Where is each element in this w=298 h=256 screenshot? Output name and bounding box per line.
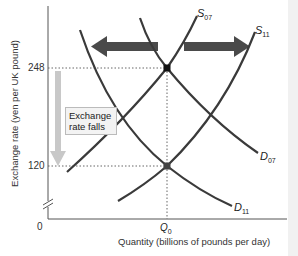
- arrow-down-icon: [50, 71, 66, 166]
- chart-canvas: [0, 0, 298, 256]
- equilibrium-point-2011: [164, 163, 171, 170]
- y-tick-248: 248: [28, 62, 45, 73]
- curve-s11: [118, 32, 255, 201]
- origin-label: 0: [37, 221, 43, 232]
- exchange-rate-falls-note: Exchange rate falls: [65, 107, 117, 135]
- x-tick-q0: Q0: [160, 222, 172, 235]
- label-d07: D07: [260, 150, 276, 164]
- curve-d07: [140, 18, 258, 153]
- equilibrium-point-2007: [164, 65, 171, 72]
- x-axis-label: Quantity (billions of pounds per day): [118, 236, 270, 247]
- y-tick-120: 120: [28, 160, 45, 171]
- y-axis-label: Exchange rate (yen per UK pound): [9, 14, 20, 214]
- label-d11: D11: [234, 201, 249, 215]
- label-s07: S07: [197, 7, 212, 21]
- curve-s07: [67, 16, 197, 172]
- label-s11: S11: [255, 24, 270, 38]
- arrow-right-icon: [184, 36, 250, 57]
